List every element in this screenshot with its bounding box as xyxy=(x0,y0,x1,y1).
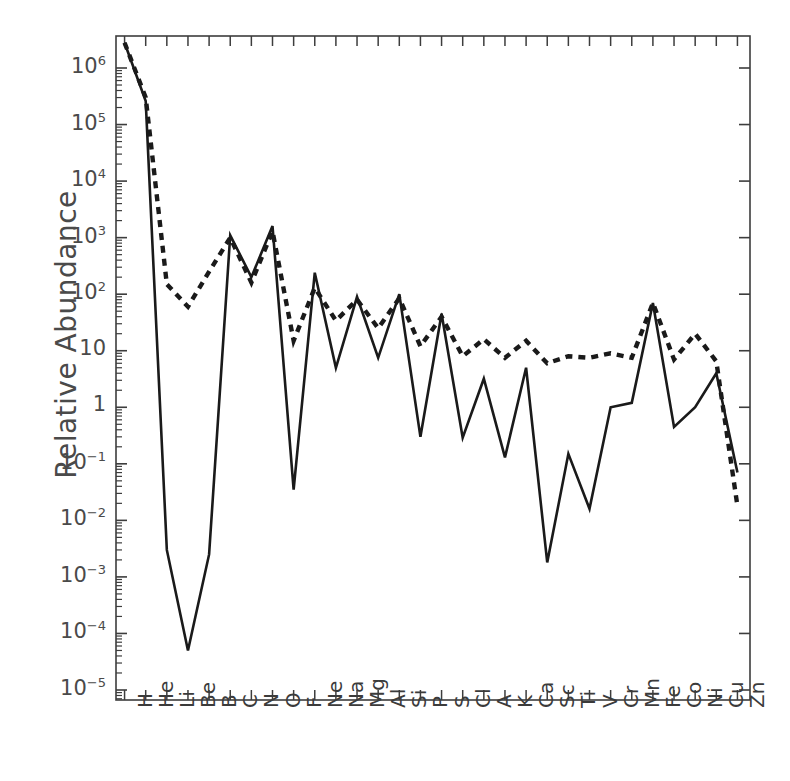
x-tick-label-S: S xyxy=(450,695,474,708)
y-axis-ticks xyxy=(116,68,750,699)
y-tick-label: 103 xyxy=(71,223,106,248)
y-tick-label: 106 xyxy=(71,53,106,78)
y-tick-label: 104 xyxy=(71,166,106,191)
y-tick-label: 10−3 xyxy=(60,562,106,587)
y-tick-label: 102 xyxy=(71,279,106,304)
x-tick-label-Zn: Zn xyxy=(745,682,769,708)
y-tick-label: 10−5 xyxy=(60,675,106,700)
x-tick-label-Ti: Ti xyxy=(576,691,600,708)
y-tick-label: 10−4 xyxy=(60,618,106,643)
y-tick-label: 105 xyxy=(71,110,106,135)
x-tick-label-N: N xyxy=(259,693,283,708)
series-line-solid xyxy=(125,43,738,651)
y-tick-label: 10−2 xyxy=(60,505,106,530)
y-tick-label: 1 xyxy=(93,392,106,416)
x-tick-label-H: H xyxy=(133,693,157,708)
x-tick-label-V: V xyxy=(598,694,622,708)
x-tick-label-P: P xyxy=(428,696,452,708)
chart-plot-svg xyxy=(0,0,790,781)
x-tick-label-O: O xyxy=(281,692,305,708)
abundance-chart-figure: Relative Abundance 10610510410310210110−… xyxy=(0,0,790,781)
y-tick-label: 10−1 xyxy=(60,449,106,474)
y-tick-label: 10 xyxy=(79,336,106,360)
